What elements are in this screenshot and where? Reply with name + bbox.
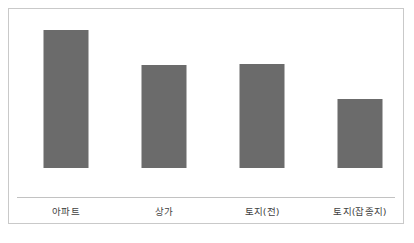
bar-rect[interactable] <box>338 99 383 168</box>
bar-group: 84,50% 아파트 <box>17 9 115 223</box>
footer-caption <box>248 236 410 243</box>
bar-rect[interactable] <box>142 65 187 168</box>
bar-rect[interactable] <box>240 64 285 168</box>
bar-category-label: 토지(전) <box>245 204 280 218</box>
bar-category-label: 아파트 <box>52 204 79 218</box>
plot-area: 84,50% 아파트 63,09% 상가 63,70% 토지(전) 42,07%… <box>9 9 403 223</box>
bar-category-label: 토지(잡종지) <box>333 204 386 218</box>
bar-group: 42,07% 토지(잡종지) <box>311 9 409 223</box>
bar-group: 63,70% 토지(전) <box>213 9 311 223</box>
chart-frame: 84,50% 아파트 63,09% 상가 63,70% 토지(전) 42,07%… <box>8 8 404 224</box>
bar-group: 63,09% 상가 <box>115 9 213 223</box>
bar-chart-figure: 84,50% 아파트 63,09% 상가 63,70% 토지(전) 42,07%… <box>0 0 414 243</box>
bar-rect[interactable] <box>44 30 89 168</box>
bar-category-label: 상가 <box>155 204 173 218</box>
